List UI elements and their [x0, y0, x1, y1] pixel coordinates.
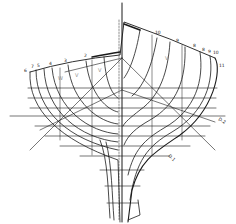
station-label: 7 [31, 64, 34, 69]
body-plan-diagram: 6 7 5 4 3 2 10 9 8 8 9 10 11 D.2 D.1 W V… [0, 0, 236, 224]
starboard-station-labels: 10 9 8 8 9 10 11 [155, 30, 225, 68]
station-label: 3 [64, 58, 67, 63]
interior-label: V [98, 67, 102, 73]
station-label: 9 [176, 38, 179, 43]
station-label: 10 [213, 50, 219, 55]
station-label: 8 [202, 47, 205, 52]
port-station-labels: 6 7 5 4 3 2 [24, 53, 87, 73]
diagonal-label: D.1 [167, 153, 176, 162]
station-label: 4 [49, 61, 52, 66]
station-label: 2 [84, 53, 87, 58]
station-label: 6 [24, 68, 27, 73]
interior-label: W [58, 75, 63, 81]
hull-lines-drawing: 6 7 5 4 3 2 10 9 8 8 9 10 11 D.2 D.1 W V… [0, 0, 236, 224]
diagonal-label: D.2 [218, 117, 227, 125]
interior-label: V [75, 72, 79, 78]
waterlines [10, 88, 225, 203]
station-label: 5 [37, 63, 40, 68]
station-label: 11 [219, 63, 225, 68]
interior-label: V [165, 55, 169, 61]
station-label: 8 [193, 43, 196, 48]
station-label: 9 [208, 49, 211, 54]
port-frames [30, 57, 120, 222]
station-label: 10 [155, 30, 161, 35]
